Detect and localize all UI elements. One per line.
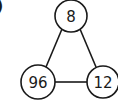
node-bottom-left-label: 96 [28,74,47,92]
edge-top-bottom-left [46,29,62,67]
edge-top-bottom-right [80,29,96,67]
node-top: 8 [55,0,87,32]
node-top-label: 8 [66,8,76,26]
triangle-diagram: 8 96 12 [0,0,118,108]
node-bottom-left: 96 [21,65,55,99]
node-bottom-right-label: 12 [93,74,112,92]
node-bottom-right: 12 [87,66,118,98]
